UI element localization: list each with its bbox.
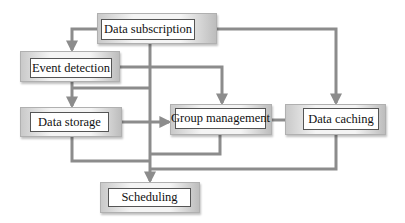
edge-subscription-to-caching [217,29,336,103]
node-label-data-storage: Data storage [30,112,109,132]
node-scheduling: Scheduling [100,182,200,213]
node-label-data-caching: Data caching [303,108,379,130]
edge-storage-to-scheduling [72,137,150,161]
node-event-detection: Event detection [20,51,120,82]
edge-group-to-scheduling [150,135,220,154]
node-data-storage: Data storage [20,107,122,137]
edge-subscription-to-event [72,29,100,50]
node-label-event-detection: Event detection [30,58,112,78]
node-data-subscription: Data subscription [97,13,217,44]
node-label-group-management: Group management [175,108,266,129]
edge-caching-to-scheduling [150,135,336,169]
node-label-data-subscription: Data subscription [101,19,195,40]
node-label-scheduling: Scheduling [108,188,191,207]
edge-event-to-group [120,67,222,103]
node-group-management: Group management [170,104,272,135]
node-data-caching: Data caching [285,104,386,135]
